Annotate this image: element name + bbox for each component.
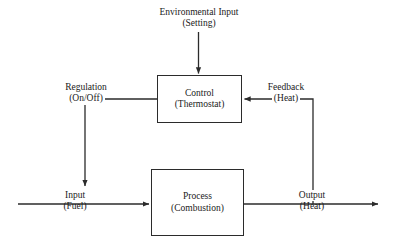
label-feedback: Feedback (Heat) — [253, 82, 319, 105]
node-process-secondary: (Combustion) — [171, 203, 224, 214]
label-environmental-input: Environmental Input (Setting) — [136, 7, 262, 30]
label-environmental-input-primary: Environmental Input — [136, 7, 262, 18]
label-input: Input (Fuel) — [44, 190, 106, 213]
label-output-secondary: (Heat) — [281, 201, 343, 212]
feedback-arrow — [245, 99, 314, 204]
node-process: Process (Combustion) — [151, 169, 244, 236]
control-loop-diagram: Control (Thermostat) Process (Combustion… — [0, 0, 396, 246]
label-environmental-input-secondary: (Setting) — [136, 18, 262, 29]
label-regulation-secondary: (On/Off) — [50, 93, 122, 104]
label-feedback-primary: Feedback — [253, 82, 319, 93]
label-output: Output (Heat) — [281, 190, 343, 213]
regulation-arrow — [85, 99, 157, 186]
node-process-primary: Process — [183, 191, 212, 202]
label-output-primary: Output — [281, 190, 343, 201]
label-feedback-secondary: (Heat) — [253, 93, 319, 104]
label-input-secondary: (Fuel) — [44, 201, 106, 212]
node-control: Control (Thermostat) — [157, 75, 242, 123]
node-control-secondary: (Thermostat) — [175, 99, 225, 110]
label-regulation-primary: Regulation — [50, 82, 122, 93]
label-input-primary: Input — [44, 190, 106, 201]
node-control-primary: Control — [185, 88, 214, 99]
label-regulation: Regulation (On/Off) — [50, 82, 122, 105]
